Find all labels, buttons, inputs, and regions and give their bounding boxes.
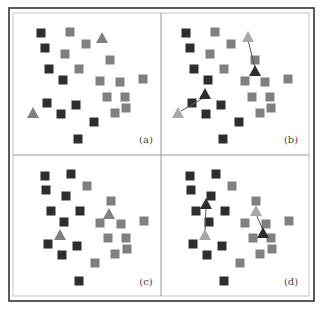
dark-square-point [42,186,51,195]
gray-square-point [236,259,245,268]
gray-square-point [285,217,294,226]
dark-square-point [212,170,221,179]
gray-square-point [211,28,220,37]
gray-square-point [252,197,261,206]
centroid-triangle-icon [199,88,211,99]
dark-square-point [41,44,50,53]
panel-label: (a) [139,134,153,145]
gray-square-point [96,77,105,86]
gray-square-point [266,93,275,102]
gray-square-point [241,77,250,86]
centroid-triangle-icon [249,65,261,76]
gray-square-point [228,182,237,191]
dark-square-point [219,135,228,144]
gray-square-point [248,93,257,102]
dark-square-point [76,207,85,216]
gray-square-point [106,56,115,65]
gray-square-point [111,109,120,118]
dark-square-point [189,240,198,249]
gray-square-point [91,259,100,268]
gray-square-point [83,182,92,191]
gray-square-point [284,75,293,84]
panel-d: (d) [186,170,299,288]
centroid-triangle-icon [199,229,211,240]
gray-square-point [117,220,126,229]
centroid-triangle-icon [257,227,269,238]
gray-square-point [256,250,265,259]
dark-square-point [186,44,195,53]
gray-square-point [262,220,271,229]
gray-square-point [268,245,277,254]
gray-square-point [122,104,131,113]
dark-square-point [207,192,216,201]
dark-square-point [43,99,52,108]
dark-square-point [58,251,67,260]
gray-square-point [123,245,132,254]
gray-square-point [75,65,84,74]
centroid-triangle-icon [54,229,66,240]
gray-square-point [82,40,91,49]
dark-square-point [37,29,46,38]
dark-square-point [60,218,69,227]
dark-square-point [204,76,213,85]
dark-square-point [67,170,76,179]
gray-square-point [256,109,265,118]
dark-square-point [74,135,83,144]
movement-arrow [205,207,206,232]
centroid-triangle-icon [250,205,262,216]
gray-square-point [249,234,258,243]
gray-square-point [122,234,131,243]
dark-square-point [62,192,71,201]
dark-square-point [202,110,211,119]
dark-square-point [218,242,227,251]
gray-square-point [66,28,75,37]
gray-square-point [96,219,105,228]
dark-square-point [59,76,68,85]
panel-label: (b) [284,134,298,145]
centroid-triangle-icon [103,208,115,219]
dark-square-point [72,101,81,110]
gray-square-point [116,78,125,87]
dark-square-point [45,65,54,74]
gray-square-point [139,75,148,84]
dark-square-point [75,277,84,286]
gray-square-point [261,78,270,87]
dark-square-point [57,110,66,119]
dark-square-point [190,65,199,74]
dark-square-point [44,240,53,249]
gray-square-point [61,50,70,59]
dark-square-point [220,277,229,286]
gray-square-point [241,219,250,228]
dark-square-point [182,29,191,38]
panel-b: (b) [172,28,298,146]
dark-square-point [203,251,212,260]
centroid-triangle-icon [96,32,108,43]
panel-c: (c) [41,170,153,288]
dark-square-point [192,207,201,216]
gray-square-point [220,65,229,74]
centroid-triangle-icon [27,107,39,118]
panel-a: (a) [27,28,153,146]
gray-square-point [104,234,113,243]
dark-square-point [221,207,230,216]
dark-square-point [47,207,56,216]
dark-square-point [235,118,244,127]
panel-label: (d) [284,276,298,287]
centroid-triangle-icon [242,31,254,42]
gray-square-point [140,217,149,226]
gray-square-point [206,50,215,59]
gray-square-point [227,40,236,49]
dark-square-point [90,118,99,127]
centroid-triangle-icon [172,107,184,118]
gray-square-point [121,93,130,102]
dark-square-point [186,172,195,181]
gray-square-point [267,104,276,113]
dark-square-point [41,172,50,181]
dark-square-point [73,242,82,251]
panel-label: (c) [139,276,153,287]
gray-square-point [103,93,112,102]
clustering-figure: (a)(b)(c)(d) [0,0,322,309]
gray-square-point [111,250,120,259]
dark-square-point [187,186,196,195]
dark-square-point [217,101,226,110]
